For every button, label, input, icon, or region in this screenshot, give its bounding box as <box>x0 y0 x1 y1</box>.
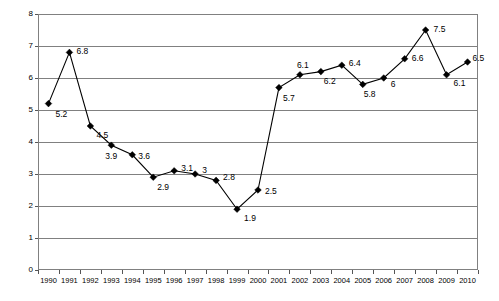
x-tick-mark-18 <box>415 270 416 274</box>
data-label-1998: 2.8 <box>223 173 235 182</box>
data-point-1991 <box>66 49 73 56</box>
x-tick-mark-13 <box>310 270 311 274</box>
y-tick-label-1: 1 <box>29 234 33 242</box>
x-tick-mark-17 <box>394 270 395 274</box>
x-tick-label-1997: 1997 <box>187 277 204 285</box>
x-tick-label-2008: 2008 <box>417 277 434 285</box>
data-label-2009: 6.1 <box>454 79 466 88</box>
x-tick-label-1999: 1999 <box>229 277 246 285</box>
x-tick-label-2003: 2003 <box>313 277 330 285</box>
x-tick-mark-19 <box>436 270 437 274</box>
x-tick-label-2001: 2001 <box>271 277 288 285</box>
y-tick-label-0: 0 <box>29 266 33 274</box>
y-tick-label-5: 5 <box>29 106 33 114</box>
y-tick-label-2: 2 <box>29 202 33 210</box>
x-tick-mark-3 <box>101 270 102 274</box>
data-label-2008: 7.5 <box>434 25 446 34</box>
x-tick-mark-11 <box>268 270 269 274</box>
data-point-1990 <box>45 100 52 107</box>
x-tick-mark-9 <box>227 270 228 274</box>
y-tick-label-6: 6 <box>29 74 33 82</box>
y-tick-label-8: 8 <box>29 10 33 18</box>
data-label-1994: 3.6 <box>138 152 150 161</box>
x-tick-label-2004: 2004 <box>333 277 350 285</box>
x-tick-mark-2 <box>80 270 81 274</box>
data-label-2010: 6.5 <box>473 54 485 63</box>
x-tick-mark-15 <box>352 270 353 274</box>
x-tick-label-1990: 1990 <box>40 277 57 285</box>
x-tick-label-2006: 2006 <box>375 277 392 285</box>
x-tick-mark-0 <box>38 270 39 274</box>
x-tick-label-1996: 1996 <box>166 277 183 285</box>
x-tick-label-2010: 2010 <box>459 277 476 285</box>
x-tick-mark-16 <box>373 270 374 274</box>
x-tick-mark-12 <box>289 270 290 274</box>
series-markers <box>45 27 471 213</box>
data-point-2010 <box>464 59 471 66</box>
data-label-1991: 6.8 <box>76 47 88 56</box>
x-tick-label-1995: 1995 <box>145 277 162 285</box>
x-tick-mark-20 <box>457 270 458 274</box>
x-tick-label-2009: 2009 <box>438 277 455 285</box>
data-point-2001 <box>276 84 283 91</box>
x-tick-label-1994: 1994 <box>124 277 141 285</box>
x-tick-mark-21 <box>478 270 479 274</box>
data-label-2004: 6.4 <box>349 59 361 68</box>
data-label-1999: 1.9 <box>244 214 256 223</box>
y-tick-label-4: 4 <box>29 138 33 146</box>
x-tick-label-2000: 2000 <box>250 277 267 285</box>
line-chart: 012345678 199019911992199319941995199619… <box>0 0 499 301</box>
x-tick-label-2002: 2002 <box>292 277 309 285</box>
data-label-2007: 6.6 <box>412 54 424 63</box>
x-tick-label-2007: 2007 <box>396 277 413 285</box>
data-point-2002 <box>297 72 304 79</box>
x-tick-mark-7 <box>185 270 186 274</box>
data-label-1990: 5.2 <box>55 109 67 118</box>
data-label-2001: 5.7 <box>283 93 295 102</box>
y-tick-label-3: 3 <box>29 170 33 178</box>
data-label-1996: 3.1 <box>181 164 193 173</box>
x-tick-mark-6 <box>164 270 165 274</box>
data-label-2005: 5.8 <box>364 90 376 99</box>
x-tick-label-1992: 1992 <box>82 277 99 285</box>
data-label-1997: 3 <box>202 166 207 175</box>
data-label-1993: 3.9 <box>105 152 117 161</box>
x-tick-mark-10 <box>248 270 249 274</box>
data-label-2002: 6.1 <box>297 61 309 70</box>
x-tick-mark-8 <box>206 270 207 274</box>
x-tick-mark-1 <box>59 270 60 274</box>
plot-area: 012345678 199019911992199319941995199619… <box>38 14 478 270</box>
data-label-1995: 2.9 <box>157 183 169 192</box>
data-point-1996 <box>171 168 178 175</box>
x-tick-label-1993: 1993 <box>103 277 120 285</box>
x-tick-label-1991: 1991 <box>61 277 78 285</box>
x-tick-mark-5 <box>143 270 144 274</box>
data-point-2003 <box>318 68 325 75</box>
data-point-2009 <box>443 72 450 79</box>
y-tick-label-7: 7 <box>29 42 33 50</box>
x-tick-mark-4 <box>122 270 123 274</box>
data-label-2003: 6.2 <box>324 76 336 85</box>
x-tick-label-1998: 1998 <box>208 277 225 285</box>
data-label-1992: 4.5 <box>96 131 108 140</box>
data-label-2006: 6 <box>391 80 396 89</box>
x-tick-label-2005: 2005 <box>354 277 371 285</box>
data-label-2000: 2.5 <box>265 187 277 196</box>
x-tick-mark-14 <box>331 270 332 274</box>
